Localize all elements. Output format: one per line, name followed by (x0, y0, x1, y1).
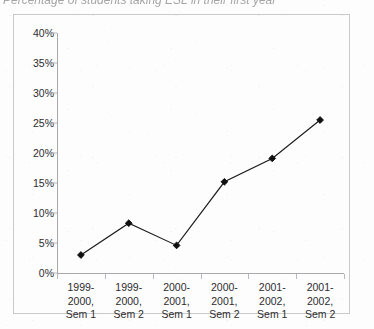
x-axis-tick-label-line: 2001- (248, 281, 296, 295)
x-axis-tick-label: 2001-2002,Sem 1 (248, 281, 296, 322)
x-axis-tick-label-line: 2001, (201, 295, 249, 309)
y-axis-tick-mark (52, 123, 57, 124)
x-axis-labels: 1999-2000,Sem 11999-2000,Sem 22000-2001,… (57, 281, 344, 327)
y-axis-tick-mark (52, 93, 57, 94)
x-axis-tick-label-line: Sem 2 (201, 308, 249, 322)
series-layer: 1999-2000, Sem 1: 3%1999-2000, Sem 2: 8.… (0, 0, 374, 329)
y-axis-tick-mark (52, 213, 57, 214)
y-axis-tick-mark (52, 183, 57, 184)
data-point-marker: 1999-2000, Sem 1: 3% (78, 252, 85, 259)
y-axis-tick-mark (52, 33, 57, 34)
x-axis-tick-mark (57, 274, 58, 279)
data-point-marker: 1999-2000, Sem 2: 8.3% (125, 220, 132, 227)
x-axis-tick-label-line: Sem 2 (296, 308, 344, 322)
series-line (81, 120, 320, 255)
x-axis-tick-label-line: 1999- (57, 281, 105, 295)
x-axis-tick-label-line: 2001- (296, 281, 344, 295)
x-axis-tick-label-line: 2002, (296, 295, 344, 309)
x-axis-tick-label-line: 2002, (248, 295, 296, 309)
x-axis-tick-mark (344, 274, 345, 279)
x-axis-tick-mark (296, 274, 297, 279)
x-axis-tick-mark (201, 274, 202, 279)
x-axis-tick-label-line: Sem 1 (248, 308, 296, 322)
x-axis-tick-label: 2001-2002,Sem 2 (296, 281, 344, 322)
x-axis-tick-label: 1999-2000,Sem 1 (57, 281, 105, 322)
x-axis-tick-mark (153, 274, 154, 279)
x-axis-tick-mark (105, 274, 106, 279)
y-axis-tick-mark (52, 63, 57, 64)
x-axis-tick-label-line: 2001, (153, 295, 201, 309)
x-axis-tick-label-line: 2000- (201, 281, 249, 295)
x-axis-tick-label-line: 1999- (105, 281, 153, 295)
plot-area: 0%5%10%15%20%25%30%35%40% 1999-2000, Sem… (0, 0, 374, 329)
series-markers: 1999-2000, Sem 1: 3%1999-2000, Sem 2: 8.… (78, 117, 324, 259)
x-axis-tick-label: 2000-2001,Sem 1 (153, 281, 201, 322)
y-axis-tick-mark (52, 153, 57, 154)
x-axis-tick-label-line: Sem 2 (105, 308, 153, 322)
y-axis-tick-mark (52, 243, 57, 244)
chart-screenshot: Percentage of students taking ESL in the… (0, 0, 374, 329)
x-axis-tick-label-line: Sem 1 (153, 308, 201, 322)
x-axis-tick-label-line: 2000- (153, 281, 201, 295)
x-axis-tick-mark (248, 274, 249, 279)
x-axis-tick-label: 1999-2000,Sem 2 (105, 281, 153, 322)
x-axis-tick-label-line: 2000, (57, 295, 105, 309)
x-axis-tick-label: 2000-2001,Sem 2 (201, 281, 249, 322)
x-axis-tick-label-line: Sem 1 (57, 308, 105, 322)
x-axis-tick-label-line: 2000, (105, 295, 153, 309)
